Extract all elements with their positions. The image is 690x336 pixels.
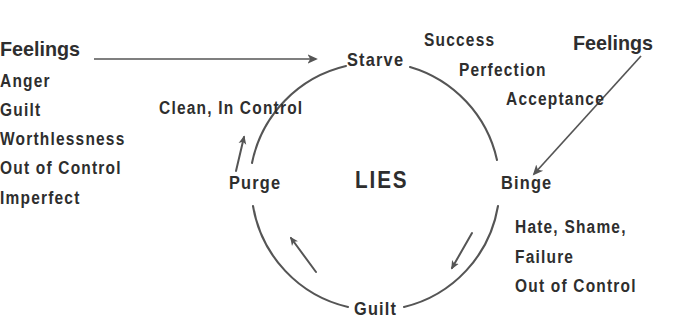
purge-annotation: Clean, In Control [159,99,303,117]
starve-annotation-success: Success [424,31,495,49]
cycle-node-purge: Purge [229,173,281,192]
arc-starve-to-binge [410,67,497,160]
binge-annotation-out-of-control: Out of Control [515,277,637,295]
right-feelings-heading: Feelings [573,32,653,53]
left-feeling-item-anger: Anger [0,72,51,90]
left-feeling-item-imperfect: Imperfect [0,189,81,207]
cycle-arrow-binge-to-guilt [452,233,472,268]
cycle-center-label: LIES [355,168,408,192]
eating-disorder-cycle-diagram: Feelings Anger Guilt Worthlessness Out o… [0,0,690,336]
starve-annotation-perfection: Perfection [459,61,547,79]
binge-annotation-hate-shame: Hate, Shame, [515,218,627,236]
starve-annotation-acceptance: Acceptance [506,90,605,108]
cycle-node-guilt: Guilt [354,299,397,318]
left-feeling-item-guilt: Guilt [0,101,41,119]
left-feelings-heading: Feelings [0,38,80,59]
cycle-arrow-purge-to-starve [236,137,244,171]
arrow-feelings-to-binge [534,56,641,174]
cycle-node-binge: Binge [501,173,552,192]
left-feeling-item-worthlessness: Worthlessness [0,130,125,148]
left-feeling-item-out-of-control: Out of Control [0,159,122,177]
binge-annotation-failure: Failure [515,248,574,266]
arc-guilt-to-purge [253,206,348,307]
cycle-node-starve: Starve [347,50,404,69]
arc-binge-to-guilt [404,206,498,307]
cycle-arrow-guilt-to-purge [291,238,316,272]
